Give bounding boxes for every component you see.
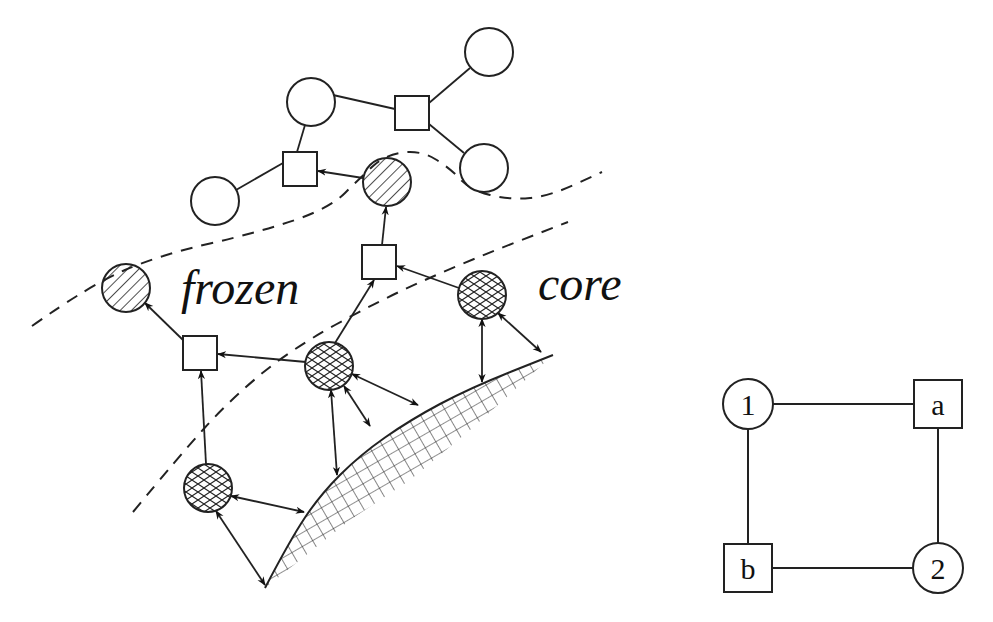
node-1-label: 1 — [741, 388, 756, 421]
label-core: core — [538, 257, 622, 310]
node-2-label: 2 — [931, 552, 946, 585]
n-hatched-circle-top-variable-node — [363, 158, 411, 206]
edge-line — [429, 124, 464, 153]
edge-double-arrow — [498, 313, 541, 352]
surface-fill — [265, 355, 553, 588]
n-left-circle-variable-node — [191, 177, 239, 225]
edge-arrow — [201, 371, 206, 464]
label-frozen: frozen — [181, 261, 299, 314]
figure: frozen core 1ab2 — [0, 0, 993, 622]
n-top-circle-variable-node — [287, 78, 335, 126]
core-surface — [265, 355, 553, 588]
node-b-label: b — [741, 552, 756, 585]
edge-arrow — [218, 354, 306, 362]
cycle-nodes: 1ab2 — [723, 379, 963, 593]
edge-double-arrow — [344, 386, 370, 426]
n-square-lower-left-factor-node — [183, 336, 217, 370]
edge-double-arrow — [331, 390, 337, 475]
n-top-right-circle-variable-node — [465, 28, 513, 76]
edge-line — [429, 68, 470, 103]
frozen-core-diagram: frozen core — [32, 28, 622, 588]
dashed-boundaries — [32, 152, 602, 512]
edge-arrow — [382, 207, 386, 245]
n-cross-circle-bottom-variable-node — [184, 464, 232, 512]
n-right-circle-variable-node — [460, 144, 508, 192]
n-hatched-circle-left-variable-node — [102, 264, 150, 312]
n-square-top-right-factor-node — [395, 96, 429, 130]
edge-line — [297, 125, 305, 152]
edge-double-arrow — [352, 374, 418, 405]
n-square-middle-factor-node — [362, 245, 396, 279]
edge-double-arrow — [231, 496, 304, 512]
n-cross-circle-right-variable-node — [458, 271, 506, 319]
edge-line — [333, 95, 395, 109]
edge-double-arrow — [216, 511, 265, 585]
bipartite-cycle-diagram: 1ab2 — [723, 379, 963, 593]
edge-arrow — [335, 280, 374, 343]
n-square-top-left-factor-node — [283, 152, 317, 186]
edge-line — [236, 163, 283, 190]
edge-arrow — [145, 303, 183, 340]
factor-graph-figure: frozen core 1ab2 — [0, 0, 993, 622]
cycle-edges — [748, 404, 938, 568]
n-cross-circle-middle-variable-node — [305, 342, 353, 390]
node-a-label: a — [931, 388, 944, 421]
edge-arrow — [318, 171, 363, 178]
